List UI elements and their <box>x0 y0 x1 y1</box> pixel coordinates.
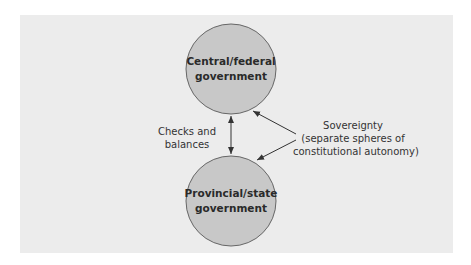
checks-label-line1: Checks and <box>152 125 222 138</box>
central-label-line1: Central/federal <box>186 54 276 69</box>
provincial-label-line2: government <box>181 201 281 216</box>
sovereignty-line1: Sovereignty <box>293 119 413 132</box>
checks-label-line2: balances <box>152 138 222 151</box>
sovereignty-line3: constitutional autonomy) <box>293 145 413 158</box>
sovereignty-arrow-central <box>253 111 296 134</box>
sovereignty-arrow-provincial <box>257 140 296 160</box>
checks-balances-label: Checks and balances <box>152 125 222 151</box>
sovereignty-line2: (separate spheres of <box>293 132 413 145</box>
central-government-label: Central/federal government <box>186 54 276 84</box>
provincial-label-line1: Provincial/state <box>181 186 281 201</box>
provincial-government-label: Provincial/state government <box>181 186 281 216</box>
central-label-line2: government <box>186 69 276 84</box>
sovereignty-label: Sovereignty (separate spheres of constit… <box>293 119 413 158</box>
